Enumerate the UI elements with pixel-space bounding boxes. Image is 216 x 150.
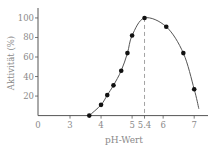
y-tick-label: 60	[23, 52, 34, 62]
ph-activity-chart: 03455.467 20406080100 pH-Wert Aktivität …	[0, 0, 216, 150]
y-axis-ticks: 20406080100	[18, 13, 38, 101]
data-point	[125, 51, 130, 56]
x-tick-label: 4	[98, 120, 103, 130]
data-point	[99, 103, 104, 108]
activity-curve	[89, 18, 199, 116]
x-tick-label: 0	[35, 120, 40, 130]
axes	[38, 8, 208, 116]
data-point	[87, 113, 92, 118]
x-tick-label: 3	[67, 120, 72, 130]
x-axis-ticks: 03455.467	[35, 116, 197, 130]
x-tick-label: 5.4	[138, 120, 152, 130]
y-tick-label: 40	[23, 72, 34, 82]
data-point	[181, 51, 186, 56]
x-tick-label: 6	[160, 120, 165, 130]
data-point	[164, 24, 169, 29]
x-axis-label: pH-Wert	[105, 135, 143, 145]
data-point	[111, 83, 116, 88]
y-axis-label: Aktivität (%)	[6, 36, 16, 91]
y-tick-label: 100	[18, 13, 34, 23]
x-tick-label: 5	[129, 120, 134, 130]
y-tick-label: 80	[23, 32, 34, 42]
data-point	[192, 87, 197, 92]
x-tick-label: 7	[191, 120, 196, 130]
data-point	[119, 68, 124, 73]
y-tick-label: 20	[23, 91, 34, 101]
data-point	[105, 93, 110, 98]
data-point	[142, 16, 147, 21]
data-point	[130, 33, 135, 38]
